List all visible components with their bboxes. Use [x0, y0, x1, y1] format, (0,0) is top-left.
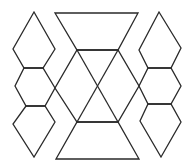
- right-top-diamond: [139, 12, 181, 68]
- right-middle-hexagon: [139, 68, 181, 104]
- right-bottom-diamond: [140, 104, 181, 157]
- left-top-diamond: [13, 12, 55, 68]
- bottom-trapezoid: [56, 122, 139, 159]
- left-middle-hexagon: [15, 68, 55, 106]
- left-bottom-diamond: [13, 106, 55, 157]
- geometric-figure: [0, 0, 193, 168]
- top-trapezoid: [55, 13, 138, 50]
